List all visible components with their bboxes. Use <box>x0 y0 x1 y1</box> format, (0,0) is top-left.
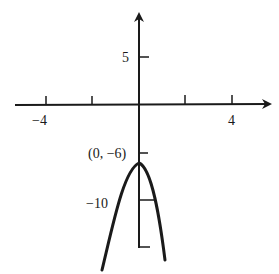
parabola-graph: −4 4 5 −10 (0, −6) <box>0 0 279 274</box>
y-ticks <box>139 57 156 247</box>
x-axis <box>15 104 270 105</box>
x-tick-label-neg4: −4 <box>32 113 47 128</box>
vertex-label: (0, −6) <box>88 146 127 162</box>
y-tick-label-neg10: −10 <box>86 196 108 211</box>
y-tick-label-5: 5 <box>122 50 129 65</box>
x-tick-label-4: 4 <box>228 113 235 128</box>
parabola-curve <box>102 163 165 270</box>
